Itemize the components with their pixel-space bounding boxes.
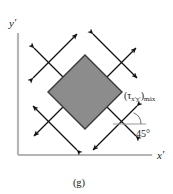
x-axis-label: x′ — [156, 148, 165, 161]
figure-container: y′ x′ — [0, 0, 173, 194]
figure-caption: (g) — [73, 177, 86, 189]
max-shear-stress-label: (τx′y′)máx — [124, 90, 156, 102]
angle-arc — [134, 113, 142, 124]
rotated-stress-element — [48, 55, 122, 129]
y-axis-label: y′ — [8, 16, 17, 29]
angle-label: 45° — [136, 128, 150, 139]
figure-drawing: y′ x′ — [0, 0, 173, 194]
stress-element-group — [48, 55, 122, 129]
